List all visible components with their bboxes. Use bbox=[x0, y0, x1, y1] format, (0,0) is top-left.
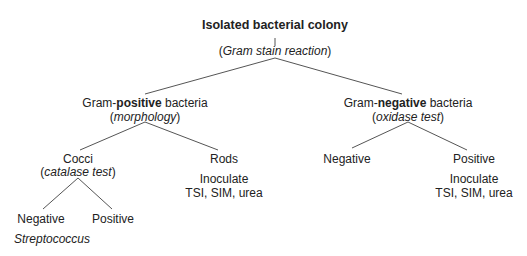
rods-note-line1: Inoculate bbox=[200, 172, 249, 186]
rods-note-line2: TSI, SIM, urea bbox=[185, 186, 262, 200]
gram-positive-prefix: Gram- bbox=[82, 96, 116, 110]
gram-negative-test: (oxidase test) bbox=[372, 110, 444, 124]
gram-positive-node: Gram-positive bacteria bbox=[82, 96, 207, 110]
gram-negative-emphasis: negative bbox=[378, 96, 427, 110]
morphology-test: morphology bbox=[114, 110, 177, 124]
edge-cocci-to-positive bbox=[78, 178, 112, 209]
edge-root-to-gram-positive bbox=[145, 58, 275, 94]
cocci-test: (catalase test) bbox=[40, 165, 115, 179]
oxidase-positive-note-line2: TSI, SIM, urea bbox=[435, 186, 512, 200]
connector-lines bbox=[0, 0, 527, 256]
paren: ) bbox=[176, 110, 180, 124]
streptococcus-result: Streptococcus bbox=[14, 232, 90, 246]
edge-gram-positive-to-cocci bbox=[80, 122, 145, 150]
cocci-node: Cocci bbox=[63, 152, 93, 166]
paren: ) bbox=[440, 110, 444, 124]
paren: ) bbox=[112, 165, 116, 179]
gram-negative-suffix: bacteria bbox=[426, 96, 472, 110]
gram-positive-suffix: bacteria bbox=[162, 96, 208, 110]
catalase-positive-node: Positive bbox=[92, 212, 134, 226]
oxidase-test: oxidase test bbox=[376, 110, 440, 124]
edge-gram-negative-to-oxidase-negative bbox=[352, 122, 408, 148]
paren: ) bbox=[327, 44, 331, 58]
catalase-negative-node: Negative bbox=[17, 212, 64, 226]
root-node-label: Isolated bacterial colony bbox=[202, 18, 348, 32]
oxidase-positive-note-line1: Inoculate bbox=[450, 172, 499, 186]
gram-negative-prefix: Gram- bbox=[344, 96, 378, 110]
edge-gram-negative-to-oxidase-positive bbox=[408, 122, 467, 150]
oxidase-positive-node: Positive bbox=[453, 152, 495, 166]
oxidase-negative-node: Negative bbox=[323, 152, 370, 166]
gram-negative-node: Gram-negative bacteria bbox=[344, 96, 473, 110]
gram-positive-emphasis: positive bbox=[116, 96, 161, 110]
edge-cocci-to-negative bbox=[43, 178, 78, 209]
edge-root-to-gram-negative bbox=[275, 58, 402, 94]
gram-stain-test: Gram stain reaction bbox=[223, 44, 328, 58]
root-test-label: (Gram stain reaction) bbox=[219, 44, 332, 58]
edge-gram-positive-to-rods bbox=[145, 122, 218, 150]
rods-node: Rods bbox=[210, 152, 238, 166]
catalase-test: catalase test bbox=[44, 165, 111, 179]
gram-positive-test: (morphology) bbox=[110, 110, 181, 124]
